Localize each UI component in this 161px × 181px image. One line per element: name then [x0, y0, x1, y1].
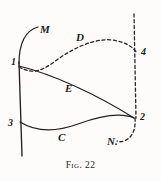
curve-label-d: D: [76, 32, 84, 43]
curve-label-m: M: [40, 24, 50, 35]
vertical-left-ordinate: [19, 62, 22, 156]
curve-d: [19, 40, 137, 71]
curve-m: [19, 27, 38, 64]
point-label-2: 2: [140, 112, 145, 122]
figure-drawing: [0, 0, 161, 181]
point-label-4: 4: [141, 47, 146, 57]
curve-label-c: C: [58, 132, 65, 143]
curve-label-n: N.: [107, 136, 118, 147]
curve-e: [19, 66, 134, 118]
curve-n: [117, 118, 135, 142]
figure-caption-prefix: Fig.: [66, 160, 83, 170]
point-label-3: 3: [8, 118, 13, 128]
figure-caption: Fig. 22: [0, 160, 161, 170]
curve-c: [20, 115, 134, 130]
figure-caption-number: 22: [85, 160, 95, 170]
vertical-right-dashed-ordinate: [134, 14, 136, 118]
point-label-1: 1: [11, 57, 16, 67]
curve-label-e: E: [65, 83, 72, 94]
figure-container: M D E C N. 1 2 3 4 Fig. 22: [0, 0, 161, 181]
